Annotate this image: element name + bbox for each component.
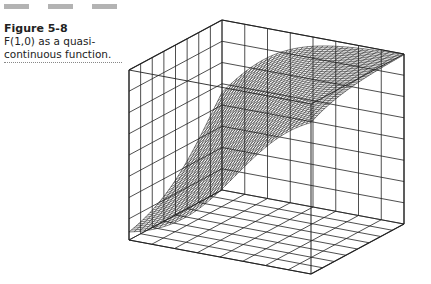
surface-plot: [0, 0, 431, 284]
